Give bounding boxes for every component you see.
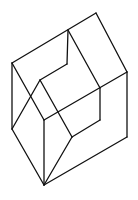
edge-A-B (12, 13, 96, 63)
edge-H-I (40, 64, 67, 80)
edge-L-E (44, 137, 72, 185)
edge-B-C (96, 13, 127, 72)
edge-E-F (12, 129, 44, 185)
edge-G-H (67, 30, 68, 64)
edge-I-L (40, 80, 72, 137)
wireframe-block-drawing (0, 0, 138, 200)
edge-K-L (72, 120, 100, 137)
edge-M-C (44, 72, 127, 120)
edge-G-J (68, 30, 100, 88)
diagram-canvas (0, 0, 138, 200)
edge-D-E (44, 137, 127, 185)
edge-A-M (12, 63, 44, 120)
